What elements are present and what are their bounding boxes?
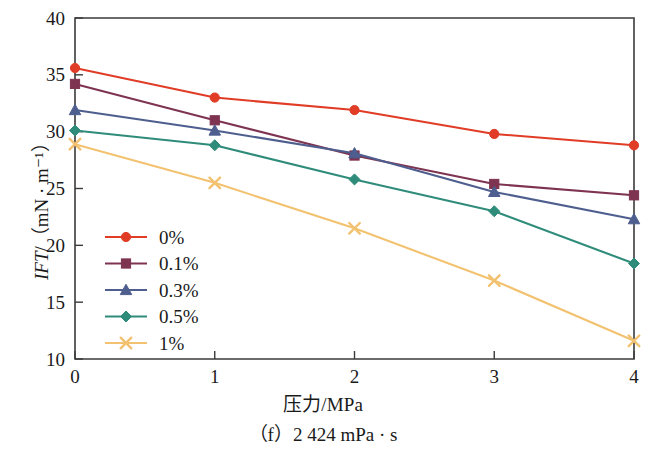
marker-diamond: [209, 140, 220, 151]
y-axis-title-symbol: IFT: [31, 252, 52, 281]
y-axis-title-units: /（mN · m⁻¹）: [31, 133, 52, 251]
y-tick-label: 15: [46, 292, 65, 313]
y-tick-label: 35: [46, 64, 65, 85]
marker-circle: [490, 129, 499, 138]
chart-legend: 0%0.1%0.3%0.5%1%: [105, 227, 199, 354]
marker-x: [489, 275, 500, 286]
legend-item-1: 0.1%: [105, 253, 199, 274]
x-tick-label: 2: [350, 366, 360, 387]
x-tick-label: 3: [490, 366, 500, 387]
marker-square: [629, 191, 638, 200]
y-axis-title: IFT/（mN · m⁻¹）: [26, 133, 53, 280]
legend-label: 0.5%: [159, 306, 199, 327]
marker-circle: [121, 232, 130, 241]
legend-label: 0.3%: [159, 280, 199, 301]
legend-item-4: 1%: [105, 333, 185, 354]
legend-item-3: 0.5%: [105, 306, 199, 327]
legend-item-0: 0%: [105, 227, 185, 248]
x-tick-label: 4: [629, 366, 639, 387]
marker-diamond: [69, 125, 80, 136]
series-0: [70, 63, 638, 149]
marker-diamond: [628, 258, 639, 269]
marker-square: [70, 79, 79, 88]
line-chart: 1015202530354001234 0%0.1%0.3%0.5%1%: [0, 0, 646, 449]
marker-diamond: [489, 206, 500, 217]
y-tick-label: 10: [46, 349, 65, 370]
figure-caption: （f）2 424 mPa · s: [0, 419, 646, 446]
series-03: [69, 104, 640, 223]
marker-triangle: [69, 104, 81, 114]
x-tick-label: 1: [210, 366, 220, 387]
chart-series: [69, 63, 640, 346]
marker-x: [349, 223, 360, 234]
chart-axes: 1015202530354001234: [46, 8, 639, 388]
legend-item-2: 0.3%: [105, 280, 199, 301]
x-tick-label: 0: [70, 366, 80, 387]
marker-circle: [210, 93, 219, 102]
series-1: [70, 139, 640, 346]
series-path: [75, 110, 634, 219]
y-tick-label: 40: [46, 8, 65, 29]
marker-diamond: [120, 311, 131, 322]
marker-square: [210, 116, 219, 125]
legend-label: 0%: [159, 227, 185, 248]
marker-circle: [70, 63, 79, 72]
marker-circle: [350, 105, 359, 114]
legend-label: 0.1%: [159, 253, 199, 274]
marker-circle: [629, 141, 638, 150]
figure-container: 1015202530354001234 0%0.1%0.3%0.5%1% IFT…: [0, 0, 646, 449]
legend-label: 1%: [159, 333, 185, 354]
marker-square: [121, 259, 130, 268]
marker-diamond: [349, 174, 360, 185]
x-axis-title: 压力/MPa: [0, 389, 646, 416]
